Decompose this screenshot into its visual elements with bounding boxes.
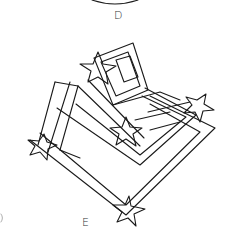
inner-window [116,56,138,82]
platform-lines [113,92,190,130]
figure-label-e: E [82,216,89,229]
star-right-icon [184,94,214,122]
outer-diamond-frame [30,96,215,215]
figure-label-d: D [114,9,122,22]
figure-drawing [0,0,232,240]
patent-figure: D E [0,0,232,240]
top-arc [92,0,138,4]
partial-mark [1,214,3,222]
